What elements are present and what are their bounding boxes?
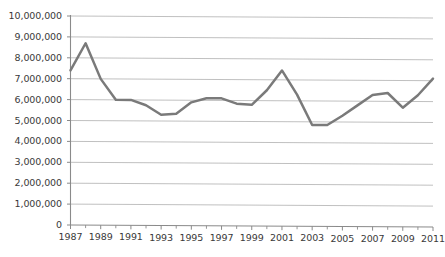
x-axis-tick-label: 1997 (210, 233, 234, 243)
x-axis-tick-label: 1989 (89, 232, 113, 242)
x-axis-tick-label: 2005 (330, 234, 354, 244)
x-axis-tick-label: 1987 (59, 232, 83, 242)
x-axis-tick-label: 2007 (361, 234, 385, 244)
x-axis-tick-label: 1995 (179, 233, 203, 243)
x-axis-tick-label: 2011 (421, 234, 445, 244)
x-axis-tick-label: 2001 (270, 233, 294, 243)
x-axis-tick-label: 1991 (119, 232, 143, 242)
x-axis-tick-label: 2003 (300, 233, 324, 243)
x-axis-tick-label: 1993 (149, 233, 173, 243)
x-axis-tick-label: 2009 (391, 234, 415, 244)
x-axis-tick-label: 1999 (240, 233, 264, 243)
